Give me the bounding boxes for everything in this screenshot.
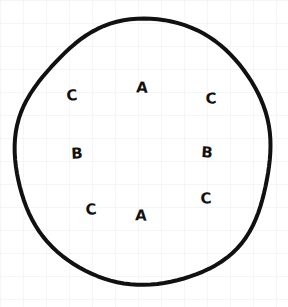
point-label-a: A bbox=[136, 80, 148, 96]
point-label-a: A bbox=[135, 208, 147, 223]
point-label-b: B bbox=[201, 145, 213, 161]
point-label-c: C bbox=[85, 202, 97, 218]
point-label-c: C bbox=[200, 191, 212, 207]
point-label-b: B bbox=[71, 146, 83, 162]
circle-outline-path bbox=[15, 18, 271, 284]
point-label-c: C bbox=[66, 88, 78, 104]
hand-drawn-circle bbox=[0, 0, 288, 307]
drawing-canvas: CACBBCAC bbox=[0, 0, 288, 307]
point-label-c: C bbox=[205, 91, 217, 106]
